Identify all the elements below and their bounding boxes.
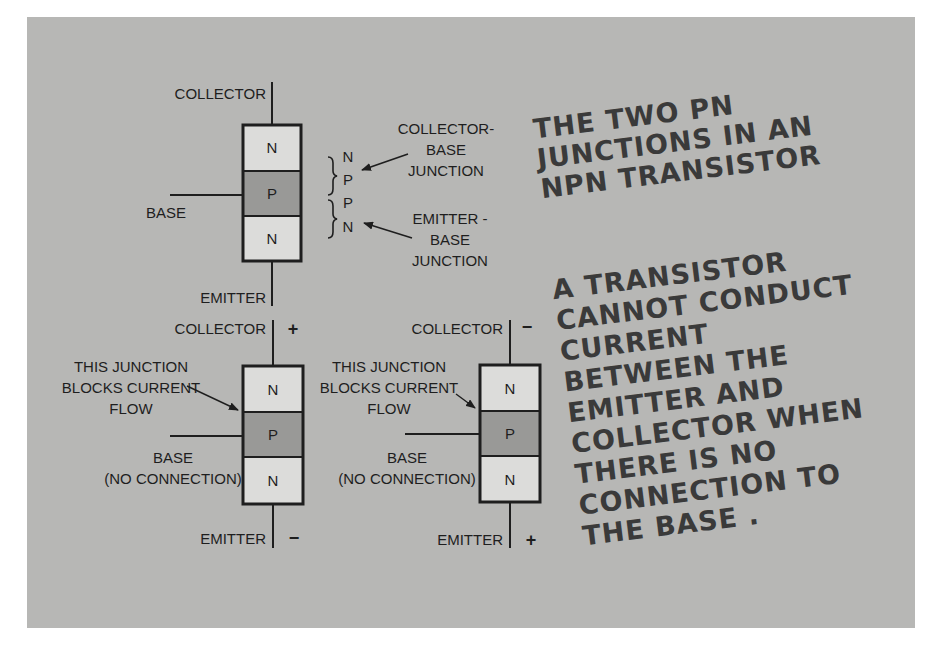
- emitter-base-junction-label: JUNCTION: [412, 252, 488, 269]
- junction-note: THIS JUNCTION: [332, 358, 446, 375]
- collector-label: COLLECTOR: [412, 320, 504, 337]
- pair-label: P: [343, 171, 353, 188]
- junction-note: BLOCKS CURRENT: [320, 379, 458, 396]
- polarity-minus: −: [522, 317, 533, 337]
- junction-note: FLOW: [367, 400, 411, 417]
- base-note: BASE: [387, 449, 427, 466]
- brace-upper: [328, 157, 337, 195]
- emitter-label: EMITTER: [200, 289, 266, 306]
- emitter-label: EMITTER: [200, 530, 266, 547]
- collector-base-junction-label: BASE: [426, 141, 466, 158]
- explanation-text: A TRANSISTOR CANNOT CONDUCT CURRENT BETW…: [551, 238, 881, 551]
- region-label-n: N: [505, 380, 516, 397]
- top-npn-transistor: COLLECTOR N P N BASE EMITTER N P P N COL…: [146, 82, 494, 306]
- emitter-base-junction-label: EMITTER -: [413, 210, 488, 227]
- top-caption: THE TWO PN JUNCTIONS IN AN NPN TRANSISTO…: [530, 79, 823, 204]
- region-label-p: P: [267, 185, 277, 202]
- junction-note: THIS JUNCTION: [74, 358, 188, 375]
- region-label-n: N: [267, 139, 278, 156]
- region-label-n: N: [268, 472, 279, 489]
- emitter-label: EMITTER: [437, 531, 503, 548]
- collector-base-junction-label: COLLECTOR-: [398, 120, 494, 137]
- polarity-plus: +: [526, 530, 537, 550]
- collector-label: COLLECTOR: [175, 320, 267, 337]
- junction-note: BLOCKS CURRENT: [62, 379, 200, 396]
- emitter-base-junction-label: BASE: [430, 231, 470, 248]
- collector-base-junction-label: JUNCTION: [408, 162, 484, 179]
- arrow-icon: [364, 223, 412, 238]
- pair-label: N: [343, 218, 354, 235]
- polarity-minus: −: [289, 528, 300, 548]
- arrow-icon: [456, 394, 475, 408]
- pair-label: N: [343, 148, 354, 165]
- region-label-n: N: [267, 230, 278, 247]
- base-label: BASE: [146, 204, 186, 221]
- brace-lower: [328, 200, 337, 238]
- base-note: (NO CONNECTION): [104, 470, 242, 487]
- region-label-n: N: [505, 471, 516, 488]
- polarity-plus: +: [288, 319, 299, 339]
- bottom-left-transistor: COLLECTOR + N P N THIS JUNCTION BLOCKS C…: [62, 319, 303, 548]
- base-note: BASE: [153, 449, 193, 466]
- region-label-p: P: [268, 426, 278, 443]
- region-label-p: P: [505, 425, 515, 442]
- junction-note: FLOW: [109, 400, 153, 417]
- bottom-right-transistor: COLLECTOR − N P N THIS JUNCTION BLOCKS C…: [320, 317, 540, 550]
- collector-label: COLLECTOR: [175, 85, 267, 102]
- arrow-icon: [362, 154, 408, 170]
- base-note: (NO CONNECTION): [338, 470, 476, 487]
- region-label-n: N: [268, 381, 279, 398]
- pair-label: P: [343, 194, 353, 211]
- transistor-diagram: COLLECTOR N P N BASE EMITTER N P P N COL…: [0, 0, 940, 654]
